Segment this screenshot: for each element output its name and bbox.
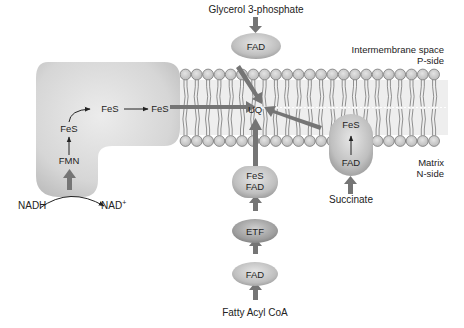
lipid-head bbox=[304, 136, 315, 147]
arrow-succinate-head bbox=[344, 176, 357, 184]
complex-ii-fad-label: FAD bbox=[342, 157, 361, 168]
complex-ii-fes-label: FeS bbox=[342, 119, 359, 130]
arrow-etf-qo-to-uq-shaft bbox=[253, 128, 258, 170]
lipid-head bbox=[395, 136, 406, 147]
lipid-head bbox=[248, 69, 259, 80]
intermembrane-space-label: Intermembrane space bbox=[352, 44, 444, 55]
lipid-head bbox=[406, 69, 417, 80]
nadh-oxidation-arrow bbox=[40, 196, 104, 208]
lipid-head bbox=[361, 69, 372, 80]
fmn-label: FMN bbox=[59, 155, 80, 166]
lipid-heads-bottom bbox=[180, 136, 439, 147]
etf-label: ETF bbox=[246, 226, 264, 237]
nad-plus-superscript: + bbox=[122, 199, 126, 206]
lipid-head bbox=[406, 136, 417, 147]
lipid-head bbox=[180, 136, 191, 147]
lipid-head bbox=[384, 69, 395, 80]
fatty-acyl-coa-label: Fatty Acyl CoA bbox=[222, 307, 288, 318]
lipid-head bbox=[429, 136, 440, 147]
lipid-head bbox=[214, 136, 225, 147]
lipid-head bbox=[338, 69, 349, 80]
flow-arrows bbox=[63, 17, 357, 300]
etf-qo-fad-label: FAD bbox=[246, 181, 265, 192]
lipid-head bbox=[282, 69, 293, 80]
lipid-head bbox=[350, 69, 361, 80]
lipid-head bbox=[304, 69, 315, 80]
arrow-complex-i-to-uq bbox=[170, 105, 248, 109]
lipid-head bbox=[203, 136, 214, 147]
nadh-label: NADH bbox=[18, 200, 46, 211]
lipid-head bbox=[293, 69, 304, 80]
nad-plus-label: NAD+ bbox=[101, 199, 126, 211]
lipid-head bbox=[271, 136, 282, 147]
lipid-head bbox=[316, 69, 327, 80]
g3p-fad-label: FAD bbox=[247, 41, 266, 52]
lipid-head bbox=[271, 69, 282, 80]
lipid-head bbox=[214, 69, 225, 80]
fes-2-label: FeS bbox=[101, 103, 118, 114]
lipid-head bbox=[259, 136, 270, 147]
succinate-label: Succinate bbox=[329, 194, 373, 205]
ubiquinone-label: UQ bbox=[248, 104, 262, 115]
lipid-head bbox=[259, 69, 270, 80]
lipid-head bbox=[327, 69, 338, 80]
lipid-head bbox=[191, 69, 202, 80]
fes-3-label: FeS bbox=[151, 103, 168, 114]
lipid-head bbox=[225, 136, 236, 147]
acyl-coa-dh-fad-label: FAD bbox=[246, 269, 265, 280]
lipid-heads-top bbox=[180, 69, 439, 80]
lipid-head bbox=[417, 136, 428, 147]
n-side-label: N-side bbox=[417, 168, 444, 179]
glycerol-3-phosphate-label: Glycerol 3-phosphate bbox=[208, 4, 303, 15]
lipid-head bbox=[282, 136, 293, 147]
lipid-head bbox=[372, 136, 383, 147]
arrow-nadh-shaft bbox=[67, 176, 72, 190]
lipid-head bbox=[293, 136, 304, 147]
fes-1-label: FeS bbox=[60, 123, 77, 134]
lipid-head bbox=[191, 136, 202, 147]
lipid-head bbox=[384, 136, 395, 147]
matrix-label: Matrix bbox=[418, 157, 444, 168]
lipid-head bbox=[225, 69, 236, 80]
arrow-g3p-shaft bbox=[253, 17, 258, 27]
electron-transport-diagram: FAD FeS FAD FeS FAD ETF FAD FMN FeS FeS … bbox=[0, 0, 464, 328]
lipid-head bbox=[429, 69, 440, 80]
etf-qo-fes-label: FeS bbox=[246, 170, 263, 181]
lipid-head bbox=[180, 69, 191, 80]
lipid-head bbox=[203, 69, 214, 80]
lipid-head bbox=[417, 69, 428, 80]
complex-i-shape bbox=[36, 62, 180, 197]
lipid-head bbox=[316, 136, 327, 147]
lipid-head bbox=[395, 69, 406, 80]
lipid-head bbox=[237, 136, 248, 147]
p-side-label: P-side bbox=[417, 55, 444, 66]
arrow-g3p-head bbox=[249, 26, 262, 33]
nad-plus-text: NAD bbox=[101, 200, 122, 211]
lipid-head bbox=[372, 69, 383, 80]
